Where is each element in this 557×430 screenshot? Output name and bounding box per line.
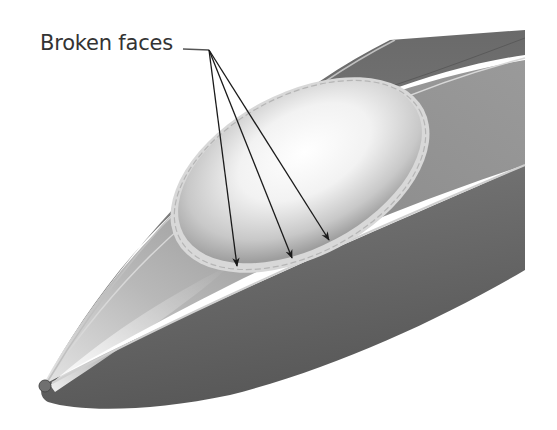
hull-model-render [0, 0, 557, 430]
nose-tip [39, 380, 51, 392]
broken-faces-label: Broken faces [40, 31, 173, 55]
